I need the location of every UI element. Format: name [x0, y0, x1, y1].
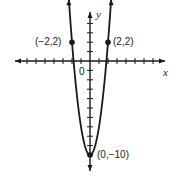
origin-label: 0: [79, 66, 85, 77]
vertex-label: (0,−10): [97, 149, 129, 160]
point-marker: [87, 152, 93, 158]
point-label-left: (−2,2): [35, 36, 61, 47]
x-axis-label: x: [162, 66, 168, 78]
point-marker: [105, 39, 111, 45]
point-marker: [69, 39, 75, 45]
parabola-graph: x y 0 (−2,2) (2,2) (0,−10): [0, 0, 177, 177]
y-axis-label: y: [95, 8, 101, 20]
point-label-right: (2,2): [113, 36, 134, 47]
